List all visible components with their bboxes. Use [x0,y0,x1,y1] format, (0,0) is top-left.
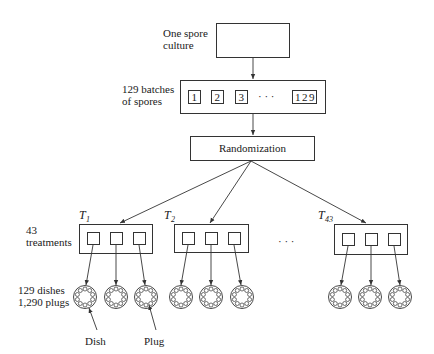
dish-icon [329,286,352,309]
treatment-t1-sub: 1 [86,215,90,224]
batch-ellipsis: · · · [258,90,275,102]
experimental-design-diagram: One spore culture 129 batches of spores … [0,0,434,354]
randomization-label: Randomization [219,142,287,154]
dishes-label-line2: 1,290 plugs [18,296,69,308]
dish-callout-label: Dish [85,335,106,347]
dish-icon [359,286,382,309]
batch-item-3: 3 [239,91,245,103]
dish-icon [74,286,97,309]
spore-culture-label-line1: One spore [163,27,208,39]
treatment-t43-unit [343,234,355,246]
batch-item-1: 1 [192,91,198,103]
dishes-label-line1: 129 dishes [18,284,65,296]
treatment-t1-unit [111,233,123,245]
dish-icon [105,286,128,309]
batches-label-line1: 129 batches [122,83,174,95]
treatment-t2-unit [183,233,195,245]
dishes [74,286,412,309]
dish-icon [135,286,158,309]
plug-callout-label: Plug [144,335,165,347]
treatment-ellipsis: · · · [278,235,295,247]
dish-icon [389,286,412,309]
batches-node: 129 batches of spores 1 2 3 · · · 129 [122,81,326,114]
treatment-t1-unit [88,233,100,245]
treatment-t43-unit [366,234,378,246]
dish-callout-arrow [89,308,97,330]
treatment-t43-sub: 43 [325,215,333,224]
arrow-to-t43 [251,161,366,223]
treatment-t1-unit [134,233,146,245]
treatment-t2-sub: 2 [171,215,175,224]
spore-culture-node: One spore culture [163,24,290,58]
dish-icon [231,286,254,309]
treatments-label-line1: 43 [26,224,38,236]
plug-callout-arrow [149,305,156,330]
treatment-t43-unit [389,234,401,246]
treatment-group-t2: T 2 [164,208,249,253]
treatment-t2-unit [206,233,218,245]
spore-culture-label-line2: culture [163,39,194,51]
arrow-to-t1 [120,161,251,223]
randomization-node: Randomization [191,137,315,161]
treatments-label-line2: treatments [26,236,72,248]
batches-label-line2: of spores [122,95,162,107]
spore-culture-box [217,24,290,58]
dish-icon [170,286,193,309]
batch-item-2: 2 [215,91,221,103]
dish-icon [200,286,223,309]
treatment-t2-unit [229,233,241,245]
batch-item-129: 129 [295,91,316,103]
